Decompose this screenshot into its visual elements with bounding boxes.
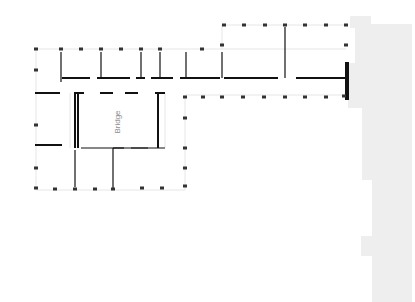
column-marker — [183, 147, 187, 150]
column-marker — [53, 188, 57, 191]
column-marker — [303, 96, 307, 99]
room-label-bridge: Bridge — [113, 110, 122, 134]
column-marker — [324, 24, 328, 27]
column-marker — [342, 95, 346, 98]
column-marker — [111, 188, 115, 191]
column-marker — [344, 24, 348, 27]
column-marker — [183, 117, 187, 120]
column-marker — [34, 187, 38, 190]
neighbor-building — [348, 16, 412, 302]
column-marker — [262, 96, 266, 99]
column-marker — [222, 24, 226, 27]
column-marker — [183, 185, 187, 188]
column-marker — [34, 48, 38, 51]
column-marker — [324, 96, 328, 99]
column-marker — [183, 167, 187, 170]
column-marker — [241, 96, 245, 99]
column-marker — [220, 44, 224, 47]
column-marker — [242, 24, 246, 27]
column-marker — [200, 48, 204, 51]
column-marker — [283, 24, 287, 27]
column-marker — [303, 24, 307, 27]
thin-walls — [61, 27, 285, 188]
column-marker — [283, 96, 287, 99]
column-marker — [34, 167, 38, 170]
column-marker — [99, 48, 103, 51]
room-labels: Bridge — [113, 110, 122, 134]
floor-plan-map[interactable]: Bridge — [0, 0, 415, 302]
column-marker — [93, 188, 97, 191]
neighbor-building-shape — [348, 16, 412, 302]
column-marker — [263, 24, 267, 27]
column-marker — [160, 187, 164, 190]
column-marker — [344, 44, 348, 47]
column-marker — [34, 124, 38, 127]
thick-walls — [35, 62, 348, 148]
column-marker — [79, 48, 83, 51]
column-marker — [59, 48, 63, 51]
column-marker — [158, 48, 162, 51]
column-marker — [183, 96, 187, 99]
column-marker — [220, 96, 224, 99]
column-marker — [140, 187, 144, 190]
column-marker — [139, 48, 143, 51]
column-marker — [73, 188, 77, 191]
column-marker — [119, 48, 123, 51]
column-marker — [201, 96, 205, 99]
column-marker — [34, 69, 38, 72]
